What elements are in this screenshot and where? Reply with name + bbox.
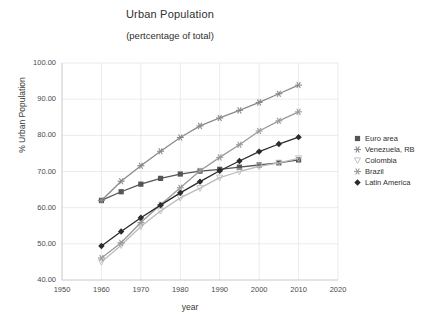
data-point-marker — [158, 176, 163, 181]
legend-marker-glyph — [354, 146, 361, 152]
legend-item-label: Brazil — [365, 167, 384, 176]
legend-item-latin-america[interactable]: Latin America — [352, 177, 415, 188]
legend-item-colombia[interactable]: Colombia — [352, 155, 415, 166]
legend-item-brazil[interactable]: Brazil — [352, 166, 415, 177]
legend-marker-icon — [352, 166, 363, 177]
chart-container: Urban Population (pertcentage of total) … — [0, 0, 440, 327]
legend-item-label: Venezuela, RB — [365, 145, 415, 154]
data-point-marker — [275, 118, 282, 124]
legend-marker-icon — [352, 133, 363, 144]
legend-item-label: Colombia — [365, 156, 397, 165]
data-point-marker — [138, 182, 143, 187]
data-point-marker — [236, 158, 242, 164]
legend-marker-glyph — [355, 158, 361, 164]
legend-item-euro-area[interactable]: Euro area — [352, 133, 415, 144]
legend-item-label: Euro area — [365, 134, 398, 143]
legend-marker-glyph — [355, 136, 360, 141]
data-point-marker — [119, 189, 124, 194]
data-point-marker — [197, 178, 203, 184]
data-point-marker — [295, 134, 301, 140]
data-point-marker — [276, 141, 282, 147]
data-point-marker — [275, 91, 282, 97]
legend-marker-icon — [352, 177, 363, 188]
legend-item-venezuela-rb[interactable]: Venezuela, RB — [352, 144, 415, 155]
data-point-marker — [236, 107, 243, 113]
legend-marker-icon — [352, 144, 363, 155]
legend-marker-icon — [352, 155, 363, 166]
legend-marker-glyph — [354, 179, 360, 185]
data-point-marker — [178, 171, 183, 176]
chart-legend: Euro areaVenezuela, RBColombiaBrazilLati… — [352, 133, 415, 188]
legend-marker-glyph — [354, 168, 361, 174]
legend-item-label: Latin America — [365, 178, 410, 187]
data-point-marker — [256, 148, 262, 154]
